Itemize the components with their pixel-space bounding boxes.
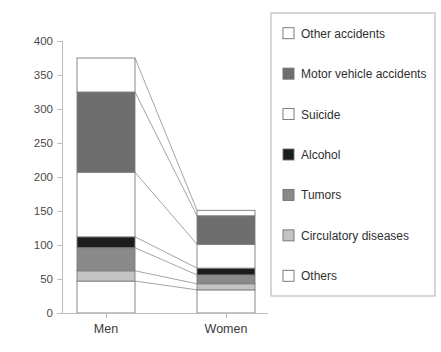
x-axis-category-label: Men [94, 322, 118, 336]
bar-segment [77, 172, 135, 237]
connector-line [135, 172, 197, 244]
bars-layer [77, 58, 255, 313]
y-axis: 050100150200250300350400 [34, 35, 62, 319]
legend-item-label: Circulatory diseases [301, 229, 409, 243]
bar-segment [197, 216, 255, 245]
legend-swatch [283, 28, 294, 39]
y-tick-label: 250 [34, 137, 53, 149]
bar-segment [197, 244, 255, 268]
legend-swatch [283, 270, 294, 281]
stacked-bar-chart: 050100150200250300350400 MenWomen Other … [0, 0, 441, 352]
bar-segment [197, 284, 255, 290]
connector-line [135, 281, 197, 290]
legend-item[interactable]: Circulatory diseases [283, 229, 409, 243]
bar-segment [77, 281, 135, 313]
legend-item-label: Tumors [301, 188, 341, 202]
connector-line [135, 237, 197, 268]
legend-swatch [283, 230, 294, 241]
bar-segment [197, 210, 255, 215]
legend-swatch [283, 149, 294, 160]
connector-line [135, 58, 197, 210]
bar-segment [197, 268, 255, 275]
bar-segment [77, 271, 135, 281]
bar-segment [77, 92, 135, 172]
legend-swatch [283, 109, 294, 120]
y-tick-label: 0 [47, 307, 53, 319]
bar-segment [77, 58, 135, 92]
connector-line [135, 248, 197, 275]
x-axis: MenWomen [62, 313, 268, 336]
bar-segment [77, 248, 135, 271]
legend-item[interactable]: Suicide [283, 108, 341, 122]
y-tick-label: 100 [34, 239, 53, 251]
legend-swatch [283, 68, 294, 79]
connector-line [135, 92, 197, 216]
y-tick-label: 350 [34, 69, 53, 81]
legend-item[interactable]: Tumors [283, 188, 341, 202]
bar-segment [197, 275, 255, 284]
legend-item-label: Other accidents [301, 27, 385, 41]
legend-item-label: Suicide [301, 108, 341, 122]
legend-border [271, 13, 435, 296]
legend-item[interactable]: Alcohol [283, 148, 340, 162]
legend-item-label: Others [301, 269, 337, 283]
y-tick-label: 150 [34, 205, 53, 217]
y-tick-label: 50 [40, 273, 53, 285]
legend-item[interactable]: Others [283, 269, 337, 283]
legend-item-label: Motor vehicle accidents [301, 67, 426, 81]
bar-segment [197, 290, 255, 313]
bar-segment [77, 237, 135, 248]
y-tick-label: 300 [34, 103, 53, 115]
chart-container: 050100150200250300350400 MenWomen Other … [0, 0, 441, 352]
y-tick-label: 200 [34, 171, 53, 183]
legend-item[interactable]: Motor vehicle accidents [283, 67, 426, 81]
legend-item-label: Alcohol [301, 148, 340, 162]
chart-legend: Other accidentsMotor vehicle accidentsSu… [271, 13, 435, 296]
connector-lines [135, 58, 197, 290]
legend-swatch [283, 189, 294, 200]
y-tick-label: 400 [34, 35, 53, 47]
x-axis-category-label: Women [205, 322, 248, 336]
connector-line [135, 271, 197, 284]
